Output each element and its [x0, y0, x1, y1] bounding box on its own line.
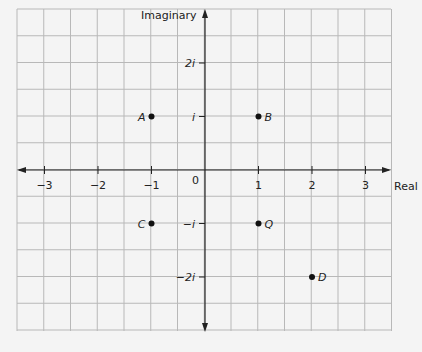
x-tick-label: −3: [36, 179, 52, 192]
point-label: B: [265, 111, 273, 124]
point-C: [149, 221, 155, 227]
point-D: [309, 274, 315, 280]
complex-plane-chart: −3−2−11232ii−i−2i ABCQD Real Imaginary 0: [0, 0, 422, 352]
x-tick-label: −1: [143, 179, 159, 192]
data-points: ABCQD: [137, 111, 327, 285]
arrow-down-icon: [202, 323, 208, 332]
x-tick-label: 1: [255, 179, 262, 192]
point-B: [256, 114, 262, 120]
y-axis-label: Imaginary: [141, 9, 197, 22]
y-tick-label: −2i: [176, 271, 195, 284]
point-A: [149, 114, 155, 120]
arrow-left-icon: [17, 167, 26, 173]
y-tick-label: 2i: [185, 57, 195, 70]
x-tick-label: 3: [362, 179, 369, 192]
y-tick-label: i: [192, 111, 195, 124]
arrow-right-icon: [382, 167, 391, 173]
origin-label: 0: [192, 174, 199, 187]
point-Q: [256, 221, 262, 227]
x-tick-label: −2: [90, 179, 106, 192]
arrow-up-icon: [202, 9, 208, 18]
y-tick-label: −i: [183, 218, 195, 231]
point-label: C: [138, 218, 146, 231]
x-axis-label: Real: [394, 180, 418, 193]
x-tick-label: 2: [309, 179, 316, 192]
point-label: A: [137, 111, 146, 124]
point-label: D: [318, 271, 326, 284]
point-label: Q: [265, 218, 274, 231]
